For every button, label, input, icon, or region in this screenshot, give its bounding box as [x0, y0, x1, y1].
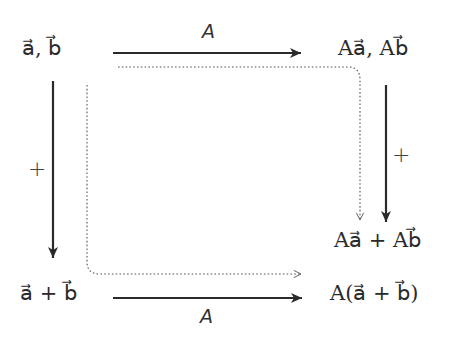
node-bottom-left: a⃗ + b⃗ [20, 283, 77, 304]
right-arrow-label: + [392, 144, 410, 166]
bottom-arrow-label: A [200, 307, 213, 326]
dotted-bottom-path [87, 85, 301, 274]
dotted-top-path [118, 67, 360, 220]
node-top-left: a⃗, b⃗ [22, 38, 61, 59]
left-arrow-label: + [28, 158, 46, 180]
node-bottom-right: A(a⃗ + b⃗) [330, 283, 419, 304]
node-mid-right: Aa⃗ + Ab⃗ [334, 230, 421, 251]
node-top-right: Aa⃗, Ab⃗ [338, 38, 408, 59]
top-arrow-label: A [202, 22, 215, 41]
